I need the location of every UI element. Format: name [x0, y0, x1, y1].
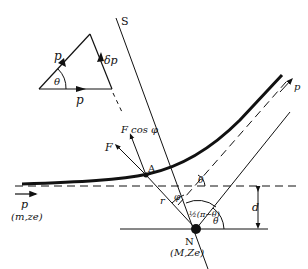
label-r: r — [160, 195, 166, 206]
half-angle-arc — [186, 200, 216, 207]
label-p-in: p — [21, 198, 28, 211]
momentum-triangle: p p δp θ — [39, 34, 122, 112]
delta-p-dashed-extension — [113, 93, 122, 112]
label-phi: φ — [174, 192, 181, 202]
label-n: N — [185, 236, 194, 247]
incoming-momentum-arrowhead — [76, 86, 86, 92]
label-particle-mass-charge: (m,ze) — [11, 211, 43, 222]
rutherford-scattering-diagram: p p δp θ S p p (m,ze) A F F cos φ r φ θ … — [0, 0, 308, 269]
label-nucleus-mass-charge: (M,Ze) — [170, 247, 204, 258]
label-theta-bottom: θ — [213, 216, 219, 226]
outgoing-p-arrow — [280, 79, 292, 92]
outgoing-asymptote-dashed — [178, 82, 286, 205]
label-a: A — [147, 163, 156, 174]
label-d: d — [252, 201, 259, 214]
label-p-out: p — [294, 81, 301, 92]
label-f: F — [104, 141, 113, 154]
nucleus-n — [191, 224, 201, 234]
label-s: S — [121, 15, 129, 28]
triangle-label-p-outgoing: p — [54, 49, 62, 63]
force-vector-f — [117, 146, 146, 175]
triangle-label-delta-p: δp — [104, 54, 118, 67]
force-vector-f-cos-phi — [131, 136, 146, 175]
triangle-label-p-incoming: p — [76, 93, 84, 107]
label-f-cos-phi: F cos φ — [120, 124, 158, 135]
triangle-label-theta: θ — [54, 76, 60, 87]
label-theta-top: θ — [198, 175, 204, 185]
